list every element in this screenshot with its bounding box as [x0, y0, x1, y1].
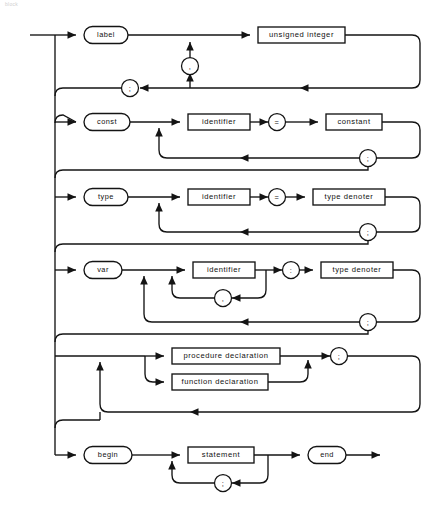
row-statement-part: begin statement end ; — [55, 447, 380, 492]
main-left-rail — [30, 35, 55, 455]
nonterminal-procedure-declaration-text: procedure declaration — [183, 351, 268, 360]
nonterminal-constant[interactable]: constant — [326, 114, 382, 130]
nonterminal-const-identifier-text: identifier — [202, 117, 236, 126]
punct-equals-type-text: = — [275, 193, 280, 202]
terminal-begin-text: begin — [98, 450, 118, 459]
nonterminal-type-identifier-text: identifier — [202, 192, 236, 201]
punct-semicolon-const: ; — [360, 150, 377, 167]
punct-semicolon-statement-text: ; — [222, 479, 225, 488]
nonterminal-const-identifier[interactable]: identifier — [188, 114, 250, 130]
terminal-type-text: type — [98, 192, 114, 201]
nonterminal-unsigned-integer[interactable]: unsigned integer — [258, 27, 345, 43]
punct-equals-const-text: = — [275, 118, 280, 127]
row-label-part: label unsigned integer , ; — [55, 27, 420, 97]
terminal-begin[interactable]: begin — [84, 447, 132, 464]
terminal-const-text: const — [97, 117, 117, 126]
punct-semicolon-type-text: ; — [367, 228, 370, 237]
terminal-end-text: end — [320, 450, 334, 459]
punct-comma-var-text: , — [222, 294, 225, 303]
punct-semicolon-label-text: ; — [129, 84, 132, 93]
nonterminal-type-denoter-2[interactable]: type denoter — [321, 262, 393, 278]
nonterminal-function-declaration-text: function declaration — [182, 377, 259, 386]
railroad-diagram: block label unsigned integer — [0, 0, 440, 522]
punct-equals-const: = — [269, 114, 286, 131]
railroad-svg: label unsigned integer , ; — [0, 0, 440, 522]
terminal-label[interactable]: label — [84, 27, 128, 44]
punct-semicolon-type: ; — [360, 224, 377, 241]
terminal-const[interactable]: const — [84, 114, 130, 131]
terminal-label-text: label — [97, 30, 115, 39]
terminal-end[interactable]: end — [308, 447, 346, 464]
punct-semicolon-procfunc: ; — [331, 348, 348, 365]
terminal-var-text: var — [97, 265, 109, 274]
nonterminal-var-identifier-text: identifier — [207, 265, 241, 274]
terminal-type[interactable]: type — [84, 189, 128, 206]
punct-comma-label: , — [182, 58, 199, 75]
nonterminal-constant-text: constant — [337, 117, 370, 126]
nonterminal-statement[interactable]: statement — [188, 447, 254, 463]
punct-comma-label-text: , — [189, 62, 192, 71]
nonterminal-type-denoter-1-text: type denoter — [325, 192, 374, 201]
punct-semicolon-statement: ; — [215, 475, 232, 492]
punct-semicolon-procfunc-text: ; — [338, 352, 341, 361]
row-proc-func-part: procedure declaration function declarati… — [55, 348, 420, 429]
punct-semicolon-label: ; — [122, 80, 139, 97]
row-const-part: const identifier = constant ; — [55, 114, 420, 179]
punct-semicolon-const-text: ; — [367, 154, 370, 163]
punct-equals-type: = — [269, 189, 286, 206]
punct-comma-var: , — [215, 290, 232, 307]
diagram-caption: block — [5, 1, 18, 7]
nonterminal-type-denoter-1[interactable]: type denoter — [313, 189, 385, 205]
nonterminal-var-identifier[interactable]: identifier — [193, 262, 255, 278]
nonterminal-function-declaration[interactable]: function declaration — [172, 374, 268, 390]
row-type-part: type identifier = type denoter ; — [55, 189, 420, 253]
nonterminal-procedure-declaration[interactable]: procedure declaration — [172, 348, 280, 364]
nonterminal-unsigned-integer-text: unsigned integer — [269, 30, 334, 39]
punct-semicolon-var-text: ; — [367, 318, 370, 327]
nonterminal-statement-text: statement — [202, 450, 241, 459]
nonterminal-type-identifier[interactable]: identifier — [188, 189, 250, 205]
row-var-part: var identifier : type denoter , — [55, 262, 420, 343]
terminal-var[interactable]: var — [84, 262, 122, 279]
punct-colon-var: : — [283, 262, 300, 279]
punct-semicolon-var: ; — [360, 314, 377, 331]
nonterminal-type-denoter-2-text: type denoter — [333, 265, 382, 274]
punct-colon-var-text: : — [290, 266, 293, 275]
